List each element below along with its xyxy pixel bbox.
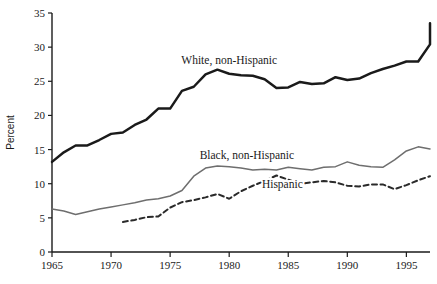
- y-axis-title: Percent: [5, 115, 16, 150]
- x-axis-ticks: 1965197019751980198519901995: [41, 252, 418, 271]
- x-tick-label: 1975: [159, 259, 182, 271]
- y-tick-label: 0: [40, 246, 46, 258]
- chart-container: 05101520253035 1965197019751980198519901…: [0, 0, 437, 284]
- x-tick-label: 1965: [41, 259, 64, 271]
- x-tick-label: 1985: [277, 259, 300, 271]
- y-tick-label: 20: [34, 109, 46, 121]
- x-tick-label: 1990: [336, 259, 359, 271]
- x-tick-label: 1995: [395, 259, 418, 271]
- series-label-0: White, non-Hispanic: [181, 54, 277, 67]
- series-label-2: Hispanic: [262, 178, 303, 191]
- series-line-0: [52, 23, 430, 162]
- y-axis-ticks: 05101520253035: [34, 7, 52, 258]
- y-tick-label: 5: [40, 212, 46, 224]
- y-tick-label: 30: [34, 41, 46, 53]
- x-tick-label: 1970: [100, 259, 123, 271]
- line-chart: 05101520253035 1965197019751980198519901…: [0, 0, 437, 284]
- y-tick-label: 10: [34, 178, 46, 190]
- y-tick-label: 25: [34, 75, 46, 87]
- y-tick-label: 35: [34, 7, 46, 19]
- x-tick-label: 1980: [218, 259, 241, 271]
- y-tick-label: 15: [34, 144, 46, 156]
- x-axis: 1965197019751980198519901995: [41, 252, 430, 271]
- y-axis: 05101520253035: [34, 7, 52, 258]
- series-label-1: Black, non-Hispanic: [200, 149, 295, 162]
